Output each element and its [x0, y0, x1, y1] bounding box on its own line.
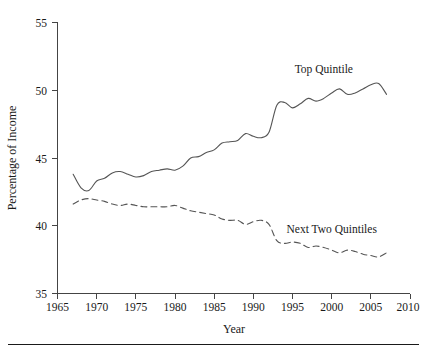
y-tick-label-40: 40 — [36, 220, 48, 232]
x-tick-label-1975: 1975 — [124, 301, 147, 313]
y-axis-title: Percentage of Income — [5, 106, 19, 211]
x-tick-label-2005: 2005 — [359, 301, 382, 313]
y-tick-marks — [52, 23, 58, 294]
x-tick-label-2010: 2010 — [397, 301, 420, 313]
annotation-top-quintile: Top Quintile — [295, 63, 353, 76]
x-tick-label-1995: 1995 — [281, 301, 304, 313]
x-tick-label-1980: 1980 — [164, 301, 187, 313]
y-tick-label-35: 35 — [36, 288, 48, 300]
x-axis-title: Year — [223, 322, 245, 336]
y-tick-label-45: 45 — [36, 153, 48, 165]
x-tick-label-1965: 1965 — [46, 301, 69, 313]
y-tick-label-50: 50 — [36, 85, 48, 97]
chart-figure: 55 50 45 40 35 1965 1970 1975 1980 1985 … — [0, 0, 427, 352]
series-line-top-quintile — [73, 83, 386, 191]
x-tick-label-1990: 1990 — [242, 301, 265, 313]
y-tick-label-55: 55 — [36, 17, 48, 29]
x-tick-label-1985: 1985 — [203, 301, 226, 313]
line-chart: 55 50 45 40 35 1965 1970 1975 1980 1985 … — [0, 0, 427, 352]
annotation-next-two-quintiles: Next Two Quintiles — [287, 223, 378, 235]
x-tick-label-2000: 2000 — [320, 301, 343, 313]
x-tick-marks — [58, 294, 411, 300]
x-tick-label-1970: 1970 — [85, 301, 108, 313]
